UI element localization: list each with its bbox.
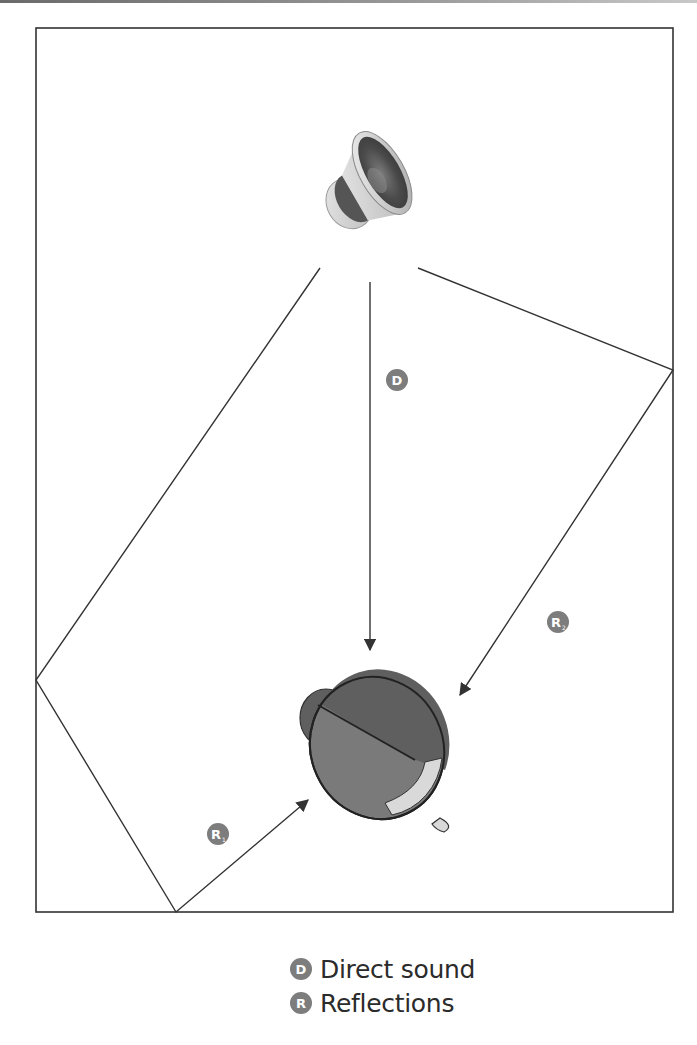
svg-text:R: R: [211, 827, 221, 842]
legend-label: Direct sound: [320, 955, 475, 984]
reflection-path-right: [418, 268, 673, 695]
svg-text:D: D: [392, 373, 403, 388]
acoustic-diagram: D R 2 R 1: [0, 0, 697, 1045]
reflection-path-left: [36, 268, 320, 912]
reflection-badge-right: R 2: [547, 611, 569, 633]
svg-text:2: 2: [562, 624, 566, 631]
direct-badge-icon: D: [290, 958, 312, 980]
reflection-badge-icon: R: [290, 992, 312, 1014]
reflection-badge-left: R 1: [207, 823, 229, 845]
loudspeaker-icon: [302, 122, 424, 246]
direct-badge: D: [386, 369, 408, 391]
svg-text:1: 1: [222, 836, 226, 843]
legend: D Direct sound R Reflections: [290, 952, 475, 1020]
legend-label: Reflections: [320, 989, 454, 1018]
legend-item-reflections: R Reflections: [290, 986, 475, 1020]
svg-text:R: R: [551, 615, 561, 630]
legend-item-direct: D Direct sound: [290, 952, 475, 986]
listener-head-icon: [287, 655, 467, 841]
